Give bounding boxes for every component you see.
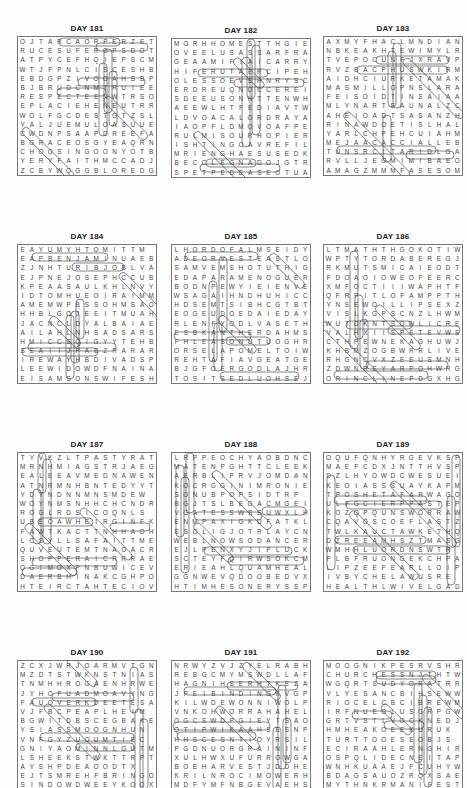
grid-letter: N (110, 254, 119, 263)
grid-letter: S (352, 147, 361, 156)
grid-letter: S (291, 76, 300, 85)
grid-letter: R (119, 554, 128, 563)
grid-letter: T (416, 462, 425, 471)
grid-letter: A (361, 725, 370, 734)
grid-letter: S (200, 76, 209, 85)
grid-letter: A (282, 661, 291, 670)
puzzle-title: DAY 192 (323, 646, 463, 660)
grid-letter: I (425, 129, 434, 138)
grid-letter: E (64, 554, 73, 563)
grid-letter: C (137, 545, 146, 554)
grid-letter: R (181, 453, 190, 462)
grid-letter: P (64, 707, 73, 716)
grid-letter: N (200, 319, 209, 328)
grid-letter: D (324, 471, 333, 480)
grid-letter: L (190, 545, 199, 554)
grid-letter: T (361, 582, 370, 591)
grid-letter: G (110, 716, 119, 725)
grid-letter: W (443, 698, 452, 707)
grid-letter: X (324, 282, 333, 291)
grid-letter: S (227, 508, 236, 517)
grid-letter: H (46, 762, 55, 771)
grid-letter: B (101, 771, 110, 780)
grid-letter: F (119, 374, 128, 383)
grid-letter: I (264, 698, 273, 707)
grid-row: WGQRTSUDYORATRR (324, 679, 462, 688)
grid-letter: T (101, 83, 110, 92)
grid-letter: H (172, 679, 181, 688)
grid-letter: E (333, 582, 342, 591)
grid-letter: I (128, 707, 137, 716)
grid-letter: R (434, 508, 443, 517)
grid-letter: H (342, 545, 351, 554)
grid-letter: R (128, 753, 137, 762)
grid-row: TVEPOCUNFJXRAVP (324, 55, 462, 64)
grid-letter: E (119, 65, 128, 74)
grid-letter: E (388, 101, 397, 110)
grid-letter: U (27, 46, 36, 55)
grid-letter: R (291, 48, 300, 57)
grid-letter: S (218, 735, 227, 744)
grid-letter: I (379, 300, 388, 309)
grid-letter: S (181, 140, 190, 149)
grid-letter: Y (218, 319, 227, 328)
grid-letter: T (82, 753, 91, 762)
grid-letter: C (137, 55, 146, 64)
grid-letter: U (181, 753, 190, 762)
grid-row: ORSELAPOMELTOIW (172, 346, 310, 355)
grid-letter: J (246, 545, 255, 554)
grid-letter: B (425, 156, 434, 165)
grid-letter: D (425, 147, 434, 156)
grid-letter: E (27, 92, 36, 101)
grid-letter: B (388, 698, 397, 707)
grid-letter: R (128, 92, 137, 101)
grid-letter: Y (273, 582, 282, 591)
grid-letter: P (82, 453, 91, 462)
grid-letter: L (301, 563, 310, 572)
grid-letter: Q (92, 55, 101, 64)
grid-letter: C (36, 319, 45, 328)
grid-letter: L (264, 346, 273, 355)
grid-letter: A (398, 147, 407, 156)
grid-letter: I (425, 319, 434, 328)
grid-letter: T (64, 670, 73, 679)
grid-letter: S (92, 328, 101, 337)
grid-letter: S (82, 273, 91, 282)
grid-letter: E (137, 471, 146, 480)
grid-letter: I (333, 74, 342, 83)
grid-row: JACNCLDYALBAIAE (18, 319, 156, 328)
grid-letter: I (370, 328, 379, 337)
grid-letter: S (246, 762, 255, 771)
grid-letter: C (370, 65, 379, 74)
grid-letter: W (453, 245, 462, 254)
grid-letter: H (110, 499, 119, 508)
grid-letter: R (209, 254, 218, 263)
grid-letter: P (407, 364, 416, 373)
grid-row: YSIASSMOOGNHUN (18, 725, 156, 734)
grid-letter: M (190, 517, 199, 526)
grid-letter: U (55, 83, 64, 92)
grid-letter: A (119, 291, 128, 300)
grid-letter: P (227, 716, 236, 725)
grid-letter: F (398, 55, 407, 64)
grid-letter: U (324, 499, 333, 508)
grid-letter: O (264, 374, 273, 383)
grid-letter: I (443, 744, 452, 753)
grid-letter: E (46, 46, 55, 55)
grid-letter: I (64, 147, 73, 156)
grid-letter: S (388, 328, 397, 337)
grid-letter: B (407, 254, 416, 263)
grid-letter: R (443, 679, 452, 688)
grid-letter: E (255, 780, 264, 788)
grid-letter: X (128, 762, 137, 771)
grid-letter: H (443, 661, 452, 670)
grid-letter: A (27, 471, 36, 480)
grid-letter: W (255, 554, 264, 563)
grid-letter: R (172, 131, 181, 140)
grid-letter: W (255, 670, 264, 679)
grid-letter: N (218, 545, 227, 554)
grid-letter: R (64, 771, 73, 780)
grid-letter: R (172, 319, 181, 328)
grid-letter: S (218, 508, 227, 517)
grid-letter: V (218, 254, 227, 263)
